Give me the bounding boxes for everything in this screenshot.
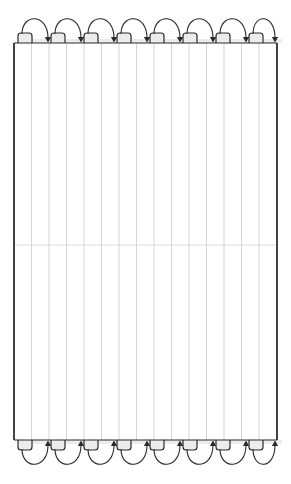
top-notch-fill [51,33,65,43]
bottom-notch-fill [117,440,131,450]
bottom-notch-fill [18,440,32,450]
top-notch-fill [117,33,131,43]
top-notch-fill [84,33,98,43]
bottom-notch-fill [84,440,98,450]
bottom-notch-fill [216,440,230,450]
bottom-notch-fill [249,440,263,450]
top-notch-fill [216,33,230,43]
boundary-line-layer [14,43,277,440]
notch-fill-layer [18,33,282,450]
sweep-line-layer [14,43,277,440]
top-notch-fill [183,33,197,43]
coverage-path-diagram [0,0,291,484]
bottom-notch-fill [51,440,65,450]
top-notch-fill [249,33,263,43]
bottom-notch-fill [150,440,164,450]
coverage-path-svg [0,0,291,484]
top-notch-fill [150,33,164,43]
bottom-notch-fill [183,440,197,450]
top-notch-fill [18,33,32,43]
